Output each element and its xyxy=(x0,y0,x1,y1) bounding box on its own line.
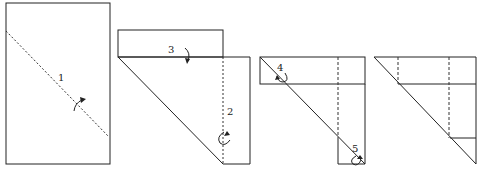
step-label-2: 2 xyxy=(227,106,233,117)
fold-down-arrow-icon xyxy=(185,48,190,64)
fold-line-diagonal xyxy=(6,31,109,137)
step-label-1: 1 xyxy=(58,72,64,83)
diagonal-edge xyxy=(260,57,365,164)
panel-4 xyxy=(374,57,476,164)
panel-2: 3 2 xyxy=(118,30,250,164)
top-band xyxy=(260,57,365,84)
folding-diagram: 1 3 2 4 5 xyxy=(0,0,479,174)
panel-3: 4 5 xyxy=(260,57,365,165)
step-label-4: 4 xyxy=(277,62,283,73)
step-label-5: 5 xyxy=(352,143,358,154)
step-label-3: 3 xyxy=(168,44,174,55)
final-triangle xyxy=(374,57,476,164)
rotate-arrow-icon xyxy=(219,131,230,144)
fold-arrow-icon xyxy=(74,97,86,111)
panel-1: 1 xyxy=(6,3,110,164)
paper-rectangle xyxy=(6,3,110,164)
